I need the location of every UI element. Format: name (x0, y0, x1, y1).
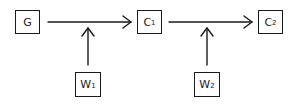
arrow-w1-up (82, 28, 94, 65)
node-c1: C1 (137, 10, 162, 34)
node-c2: C2 (258, 10, 283, 34)
node-w1-subscript: 1 (91, 82, 95, 90)
node-g-label: G (23, 16, 32, 29)
arrow-c1-to-c2 (169, 16, 252, 28)
node-c1-subscript: 1 (151, 19, 155, 27)
node-w1: W1 (75, 72, 101, 97)
node-c2-label: C (264, 16, 272, 29)
node-w2: W2 (194, 72, 220, 97)
node-w1-label: W (80, 78, 91, 91)
node-w2-subscript: 2 (210, 82, 214, 90)
node-c1-label: C (143, 16, 151, 29)
arrow-g-to-c1 (48, 16, 131, 28)
node-w2-label: W (199, 78, 210, 91)
arrow-w2-up (201, 28, 213, 65)
node-c2-subscript: 2 (272, 19, 276, 27)
node-g: G (15, 10, 40, 34)
